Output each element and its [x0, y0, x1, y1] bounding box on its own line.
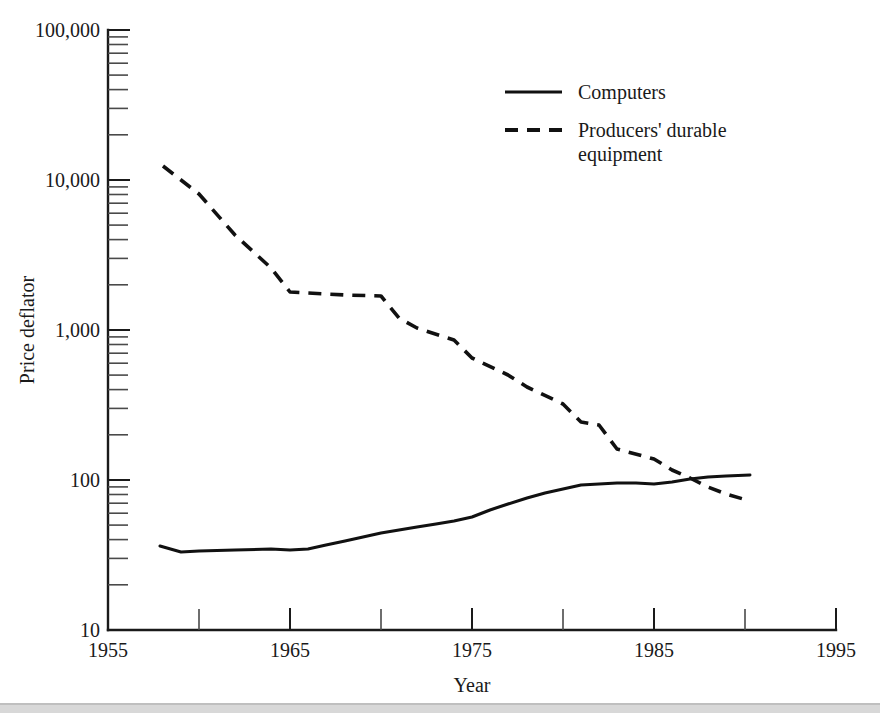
- x-tick-label: 1955: [88, 639, 128, 661]
- legend-label-producers-durable-equipment-line2: equipment: [578, 143, 663, 166]
- y-tick-label: 10,000: [45, 169, 100, 191]
- legend-label-producers-durable-equipment-line1: Producers' durable: [578, 119, 727, 141]
- x-tick-label: 1965: [270, 639, 310, 661]
- series-producers-durable-equipment: [163, 166, 750, 501]
- y-tick-label: 100: [70, 469, 100, 491]
- y-axis-title: Price deflator: [16, 276, 38, 385]
- bottom-gray-band: [0, 705, 880, 713]
- y-axis-tick-labels: 100,000 10,000 1,000 100 10: [35, 19, 100, 641]
- y-axis-minor-ticks: [108, 37, 128, 585]
- x-axis-title: Year: [454, 674, 491, 696]
- x-axis-tick-labels: 1955 1965 1975 1985 1995: [88, 639, 856, 661]
- y-tick-label: 1,000: [55, 319, 100, 341]
- legend: Computers Producers' durable equipment: [505, 81, 727, 166]
- line-chart: 100,000 10,000 1,000 100 10 1955 1965 19…: [0, 0, 880, 713]
- y-tick-label: 100,000: [35, 19, 100, 41]
- x-tick-label: 1975: [452, 639, 492, 661]
- x-axis-ticks: [108, 608, 836, 630]
- legend-label-computers: Computers: [578, 81, 666, 104]
- series-computers: [160, 475, 750, 552]
- x-tick-label: 1985: [634, 639, 674, 661]
- x-tick-label: 1995: [816, 639, 856, 661]
- y-tick-label: 10: [80, 619, 100, 641]
- axes-group: [108, 30, 836, 630]
- figure-container: 100,000 10,000 1,000 100 10 1955 1965 19…: [0, 0, 880, 713]
